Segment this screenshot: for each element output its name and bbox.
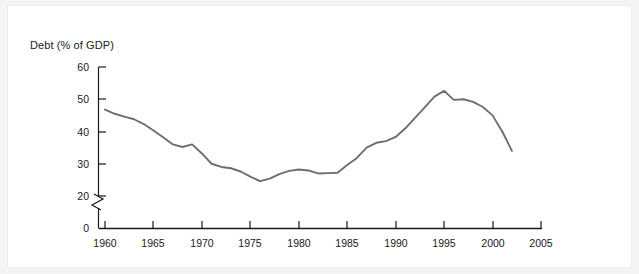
- x-tick-label-1995: 1995: [421, 237, 467, 249]
- x-tick-label-1990: 1990: [373, 237, 419, 249]
- debt-to-gdp-line-chart: Debt (% of GDP) 60 50 40 30 20 0 1960 19…: [8, 6, 633, 269]
- x-tick-label-1975: 1975: [227, 237, 273, 249]
- x-tick-label-1965: 1965: [130, 237, 176, 249]
- y-tick-label-60: 60: [59, 61, 89, 73]
- x-tick-label-1970: 1970: [179, 237, 225, 249]
- y-tick-label-20: 20: [59, 190, 89, 202]
- data-line-debt-pct-gdp: [105, 91, 512, 181]
- x-tick-label-2000: 2000: [470, 237, 516, 249]
- y-tick-label-30: 30: [59, 158, 89, 170]
- y-tick-label-50: 50: [59, 93, 89, 105]
- figure-panel: Debt (% of GDP) 60 50 40 30 20 0 1960 19…: [7, 5, 632, 268]
- y-tick-label-40: 40: [59, 126, 89, 138]
- y-tick-label-0: 0: [59, 222, 89, 234]
- x-tick-label-1960: 1960: [82, 237, 128, 249]
- x-tick-label-2005: 2005: [518, 237, 564, 249]
- x-tick-label-1985: 1985: [324, 237, 370, 249]
- x-tick-label-1980: 1980: [276, 237, 322, 249]
- y-axis-title: Debt (% of GDP): [30, 39, 114, 51]
